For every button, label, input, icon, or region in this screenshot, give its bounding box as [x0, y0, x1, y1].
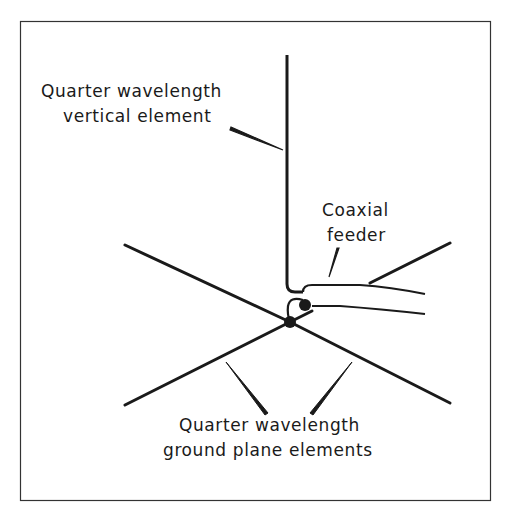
coax-leader	[329, 248, 339, 277]
vertical-label-line2: vertical element	[63, 106, 212, 126]
ground-label-line1: Quarter wavelength	[179, 415, 360, 435]
vertical-label-line1: Quarter wavelength	[41, 81, 222, 101]
coax-label-line2: feeder	[327, 225, 386, 245]
ground-element-lower-left	[125, 322, 290, 405]
antenna-diagram: Quarter wavelength vertical element Coax…	[0, 0, 508, 514]
ground-label-line2: ground plane elements	[163, 440, 373, 460]
ground-element-upper-right-outer	[370, 243, 450, 283]
vertical-leader	[230, 127, 283, 150]
ground-junction-dot	[284, 316, 296, 328]
ground-element-lower-right	[290, 322, 450, 403]
ground-element-upper-left	[125, 245, 290, 322]
coax-outer-top	[303, 285, 425, 294]
vertical-element	[287, 55, 303, 292]
ground-leader-left	[226, 362, 268, 415]
ground-leader-right	[310, 362, 352, 415]
coax-label-line1: Coaxial	[322, 200, 389, 220]
coax-outer-bottom	[312, 306, 425, 314]
coax-junction-dot	[299, 299, 311, 311]
